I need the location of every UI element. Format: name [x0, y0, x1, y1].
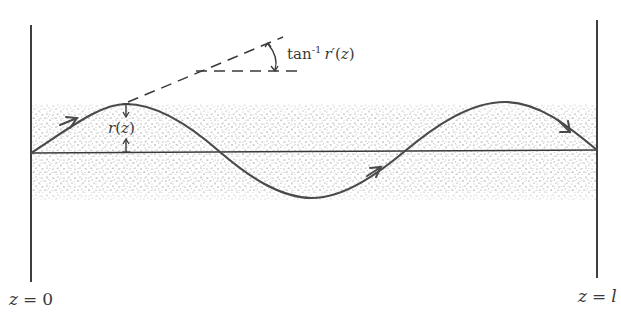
left-boundary-val: 0 [42, 289, 53, 309]
left-boundary-label: z=0 [8, 289, 53, 309]
tangent-line [128, 37, 283, 102]
left-boundary-eq: = [23, 289, 37, 309]
angle-arc-icon [265, 43, 278, 71]
angle-label-arg: z [340, 45, 349, 63]
ray-diagram-svg: tan-1r′(z) r(z) z=0 z=l [0, 0, 621, 320]
angle-label-fn: tan [287, 45, 312, 63]
angle-label: tan-1r′(z) [287, 44, 355, 63]
right-boundary-eq: = [592, 286, 606, 306]
radius-label-close-paren: ) [129, 119, 135, 137]
angle-label-superscript: -1 [312, 44, 322, 55]
right-boundary-var: z [577, 286, 588, 306]
diagram-canvas: tan-1r′(z) r(z) z=0 z=l [0, 0, 621, 320]
radius-label-arg: z [120, 119, 129, 137]
left-boundary-var: z [8, 289, 19, 309]
right-boundary-val: l [611, 286, 616, 306]
radius-label: r(z) [108, 119, 135, 137]
right-boundary-label: z=l [577, 286, 617, 306]
angle-label-close-paren: ) [349, 45, 355, 63]
